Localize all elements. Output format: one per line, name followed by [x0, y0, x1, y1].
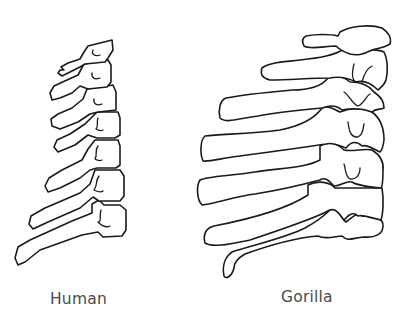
gorilla-label: Gorilla	[281, 288, 333, 306]
human-label: Human	[50, 290, 107, 308]
human-vertebrae	[15, 40, 126, 265]
vertebrae-diagram	[0, 0, 406, 330]
gorilla-vertebrae	[198, 26, 391, 278]
